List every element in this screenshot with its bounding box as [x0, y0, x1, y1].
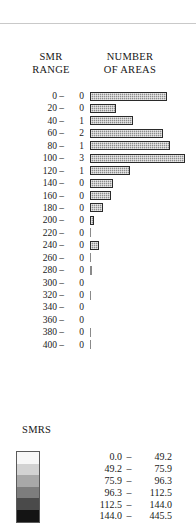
row-bar: [90, 179, 113, 188]
row-bar: [90, 104, 116, 113]
legend-range-row: 96.3–112.5: [44, 487, 184, 499]
legend-range-dash: –: [122, 510, 136, 522]
row-bar-container: [90, 203, 103, 212]
row-count-value: 1: [70, 115, 84, 127]
row-bar-container: [90, 216, 94, 225]
row-count-value: 0: [70, 339, 84, 351]
row-bar: [90, 328, 91, 337]
legend-range-row: 49.2–75.9: [44, 463, 184, 475]
legend-swatch: [17, 475, 39, 487]
row-bar-container: [90, 179, 113, 188]
row-count-value: 0: [70, 239, 84, 251]
row-bar-container: [90, 266, 92, 275]
row-range-label: 280 –: [12, 264, 64, 276]
row-bar: [90, 266, 92, 275]
row-range-label: 160 –: [12, 190, 64, 202]
top-divider: [0, 23, 196, 24]
header-number-line1: NUMBER: [88, 50, 172, 63]
chart-row: 160 –0: [0, 190, 196, 202]
row-bar: [90, 241, 99, 250]
row-bar-container: [90, 141, 170, 150]
legend-swatch-column: [16, 451, 40, 523]
row-range-label: 100 –: [12, 152, 64, 164]
chart-row: 340 –0: [0, 301, 196, 313]
chart-row: 300 –0: [0, 277, 196, 289]
row-bar: [90, 116, 133, 125]
chart-row: 40 –1: [0, 115, 196, 127]
header-smr-range: SMR RANGE: [20, 50, 82, 76]
row-range-label: 20 –: [12, 102, 64, 114]
row-range-label: 0 –: [12, 90, 64, 102]
legend-range-high: 96.3: [136, 475, 172, 487]
legend-range-row: 75.9–96.3: [44, 475, 184, 487]
chart-row: 80 –1: [0, 140, 196, 152]
chart-row: 180 –0: [0, 202, 196, 214]
row-bar-container: [90, 154, 185, 163]
row-range-label: 120 –: [12, 165, 64, 177]
row-count-value: 0: [70, 90, 84, 102]
row-bar: [90, 228, 91, 237]
chart-row: 360 –0: [0, 314, 196, 326]
legend-swatch: [17, 498, 39, 510]
legend-range-row: 112.5–144.0: [44, 499, 184, 511]
row-bar: [90, 291, 91, 300]
row-bar-container: [90, 291, 91, 300]
chart-header: SMR RANGE NUMBER OF AREAS: [0, 50, 196, 86]
chart-rows: 0 –020 –040 –160 –280 –1100 –3120 –1140 …: [0, 90, 196, 351]
header-smr-line1: SMR: [20, 50, 82, 63]
row-count-value: 0: [70, 190, 84, 202]
row-bar-container: [90, 340, 91, 349]
row-bar: [90, 216, 94, 225]
row-bar: [90, 92, 167, 101]
chart-row: 100 –3: [0, 152, 196, 164]
chart-row: 320 –0: [0, 289, 196, 301]
chart-row: 380 –0: [0, 326, 196, 338]
header-number-of-areas: NUMBER OF AREAS: [88, 50, 172, 76]
row-bar-container: [90, 328, 91, 337]
row-range-label: 240 –: [12, 239, 64, 251]
legend-range-row: 0.0–49.2: [44, 451, 184, 463]
row-bar: [90, 340, 91, 349]
row-count-value: 0: [70, 214, 84, 226]
row-count-value: 0: [70, 177, 84, 189]
chart-row: 260 –0: [0, 252, 196, 264]
row-bar-container: [90, 253, 91, 262]
legend-swatch: [17, 452, 39, 464]
row-count-value: 1: [70, 140, 84, 152]
legend-range-high: 112.5: [136, 487, 172, 499]
legend-swatch: [17, 510, 39, 522]
header-smr-line2: RANGE: [20, 63, 82, 76]
legend-range-high: 144.0: [136, 499, 172, 511]
row-bar-container: [90, 228, 91, 237]
row-range-label: 400 –: [12, 339, 64, 351]
row-range-label: 80 –: [12, 140, 64, 152]
legend-range-dash: –: [122, 475, 136, 487]
row-count-value: 0: [70, 202, 84, 214]
chart-row: 20 –0: [0, 102, 196, 114]
row-bar-container: [90, 191, 111, 200]
row-count-value: 0: [70, 301, 84, 313]
legend-range-high: 75.9: [136, 463, 172, 475]
chart-row: 120 –1: [0, 165, 196, 177]
row-range-label: 60 –: [12, 127, 64, 139]
legend-range-dash: –: [122, 463, 136, 475]
row-range-label: 180 –: [12, 202, 64, 214]
row-bar-container: [90, 166, 130, 175]
row-bar: [90, 141, 170, 150]
row-bar: [90, 154, 185, 163]
row-bar-container: [90, 92, 167, 101]
chart-row: 220 –0: [0, 227, 196, 239]
legend-range-dash: –: [122, 499, 136, 511]
row-bar-container: [90, 104, 116, 113]
legend-range-high: 445.5: [136, 510, 172, 522]
row-count-value: 1: [70, 165, 84, 177]
row-range-label: 40 –: [12, 115, 64, 127]
legend-range-low: 112.5: [86, 499, 122, 511]
row-count-value: 0: [70, 326, 84, 338]
legend-range-low: 49.2: [86, 463, 122, 475]
legend-swatch: [17, 487, 39, 499]
header-number-line2: OF AREAS: [88, 63, 172, 76]
legend-range-low: 75.9: [86, 475, 122, 487]
legend-range-dash: –: [122, 451, 136, 463]
legend-range-low: 96.3: [86, 487, 122, 499]
